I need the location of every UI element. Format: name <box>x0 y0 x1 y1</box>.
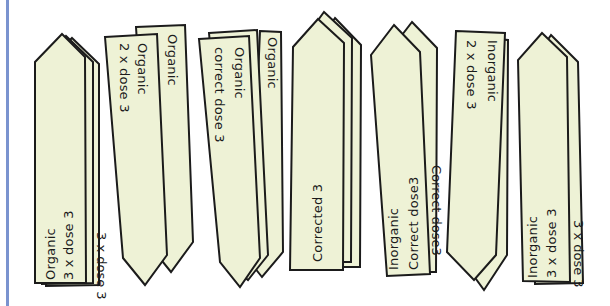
label-text-line1: Organic <box>135 43 150 95</box>
label-group-inorganic-3x: 3 x dose 3 Inorganic 3 x dose 3 <box>518 33 586 288</box>
label-group-corrected: Corrected 3 <box>290 12 361 270</box>
label-text-line1: Inorganic <box>386 208 401 270</box>
label-text-line1: Organic <box>43 228 58 280</box>
label-text-partial: Correct dose3 <box>429 165 444 256</box>
label-text-partial: Organic <box>165 34 180 86</box>
label-text-line1: Inorganic <box>485 40 500 102</box>
label-group-organic-2x: Organic Organic 2 x dose 3 <box>105 25 193 285</box>
label-text-line2: 2 x dose 3 <box>117 43 132 113</box>
label-group-inorganic-2x: Inorganic 2 x dose 3 <box>447 31 508 290</box>
label-text-line2: 2 x dose 3 <box>464 40 479 110</box>
plant-label-front <box>199 36 260 287</box>
label-text-line1: Organic <box>232 47 247 99</box>
figure-canvas: 3 x dose 3 Organic 3 x dose 3 Organic Or… <box>0 0 610 306</box>
label-text-line1: Corrected 3 <box>310 184 325 262</box>
label-text-partial: Organic <box>265 37 280 89</box>
label-text-line2: 3 x dose 3 <box>61 210 76 280</box>
label-group-organic-3x: 3 x dose 3 Organic 3 x dose 3 <box>35 34 109 300</box>
plant-labels-diagram: 3 x dose 3 Organic 3 x dose 3 Organic Or… <box>0 0 610 306</box>
label-text-partial: 3 x dose 3 <box>94 232 109 300</box>
label-text-line1: Inorganic <box>525 216 540 278</box>
label-text-line2: Correct dose3 <box>406 177 421 270</box>
label-group-inorganic-correct: Correct dose3 Inorganic Correct dose3 <box>371 22 444 276</box>
label-text-partial: 3 x dose 3 <box>571 220 586 288</box>
label-group-organic-correct: Organic Organic correct dose 3 <box>199 30 283 287</box>
label-text-line2: 3 x dose 3 <box>544 208 559 278</box>
label-text-line2: correct dose 3 <box>212 47 227 143</box>
